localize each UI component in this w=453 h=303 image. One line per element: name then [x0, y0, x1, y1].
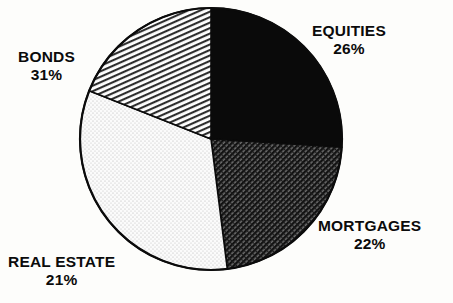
pie-label-equities: EQUITIES 26%	[312, 22, 386, 59]
pie-label-mortgages: MORTGAGES 22%	[318, 217, 421, 254]
pie-label-equities-value: 26%	[312, 40, 386, 58]
pie-label-bonds: BONDS 31%	[18, 48, 75, 85]
pie-label-mortgages-value: 22%	[318, 235, 421, 253]
pie-label-real-estate-value: 21%	[8, 271, 115, 289]
pie-label-bonds-value: 31%	[18, 66, 75, 84]
pie-label-real-estate: REAL ESTATE 21%	[8, 253, 115, 290]
pie-chart-figure: EQUITIES 26% BONDS 31% MORTGAGES 22% REA…	[0, 0, 453, 303]
pie-label-real-estate-name: REAL ESTATE	[8, 253, 115, 271]
pie-label-equities-name: EQUITIES	[312, 22, 386, 40]
pie-label-mortgages-name: MORTGAGES	[318, 217, 421, 235]
pie-label-bonds-name: BONDS	[18, 48, 75, 66]
